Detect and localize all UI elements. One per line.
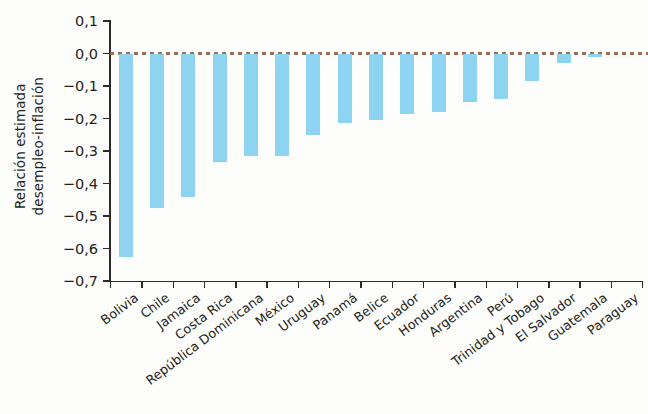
bar[interactable] [369,54,383,121]
bar[interactable] [244,54,258,156]
y-axis-tick-label: −0,5 [63,208,98,224]
y-axis-tick-label: −0,1 [63,78,98,94]
y-axis-tick-mark: −0,2 [103,118,110,120]
y-axis-title-line-2: desempleo-inflación [29,77,47,215]
y-axis-tick-label: 0,1 [75,13,98,29]
y-axis-title: Relación estimada desempleo-inflación [0,0,58,292]
bar[interactable] [306,54,320,135]
y-axis-tick-mark: 0,1 [103,20,110,22]
bar[interactable] [150,54,164,208]
y-axis-tick-mark: 0,0 [103,53,110,55]
x-axis-category-label-text: Bolivia [98,290,141,328]
y-axis-tick-label: −0,3 [63,143,98,159]
y-axis-tick-mark: −0,7 [103,280,110,282]
y-axis-title-line-1: Relación estimada [11,77,29,215]
bar[interactable] [588,54,602,57]
x-axis-tick-mark [110,281,111,288]
y-axis-tick-label: −0,4 [63,176,98,192]
bar[interactable] [432,54,446,113]
y-axis-tick-label: −0,2 [63,111,98,127]
bar[interactable] [181,54,195,197]
y-axis-tick-mark: −0,1 [103,85,110,87]
bar[interactable] [494,54,508,100]
bar-chart: Relación estimada desempleo-inflación 0,… [0,0,648,414]
bar[interactable] [213,54,227,163]
bar[interactable] [463,54,477,103]
y-axis-tick-mark: −0,3 [103,150,110,152]
y-axis-tick-label: −0,6 [63,241,98,257]
bar[interactable] [400,54,414,114]
y-axis-tick-label: 0,0 [75,46,98,62]
bar[interactable] [275,54,289,156]
bar[interactable] [338,54,352,124]
plot-area: 0,10,0−0,1−0,2−0,3−0,4−0,5−0,6−0,7 [110,21,642,281]
y-axis-tick-mark: −0,5 [103,215,110,217]
y-axis-tick-mark: −0,4 [103,183,110,185]
bar[interactable] [557,54,571,64]
y-axis-tick-mark: −0,6 [103,248,110,250]
bar[interactable] [119,54,133,257]
y-axis-tick-label: −0,7 [63,273,98,289]
bar[interactable] [525,54,539,82]
